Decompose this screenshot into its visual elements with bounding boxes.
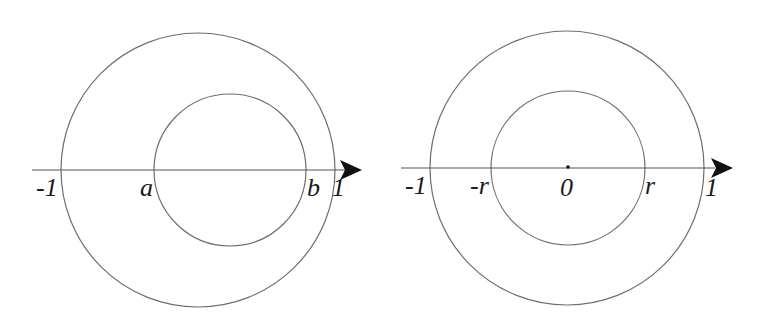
left-label-neg-one: -1 — [36, 173, 58, 202]
right-label-neg-r: -r — [470, 171, 490, 200]
left-diagram: -1 a b 1 — [32, 33, 362, 307]
left-label-a: a — [140, 173, 153, 202]
right-label-r: r — [645, 171, 656, 200]
left-label-b: b — [307, 173, 320, 202]
right-label-one: 1 — [705, 173, 718, 202]
right-label-zero: 0 — [560, 173, 573, 202]
right-diagram: -1 -r 0 r 1 — [401, 31, 733, 305]
right-label-neg-one: -1 — [405, 171, 427, 200]
origin-dot — [566, 165, 570, 169]
left-label-one: 1 — [332, 173, 345, 202]
annulus-diagrams: -1 a b 1 -1 -r 0 r 1 — [0, 0, 766, 326]
